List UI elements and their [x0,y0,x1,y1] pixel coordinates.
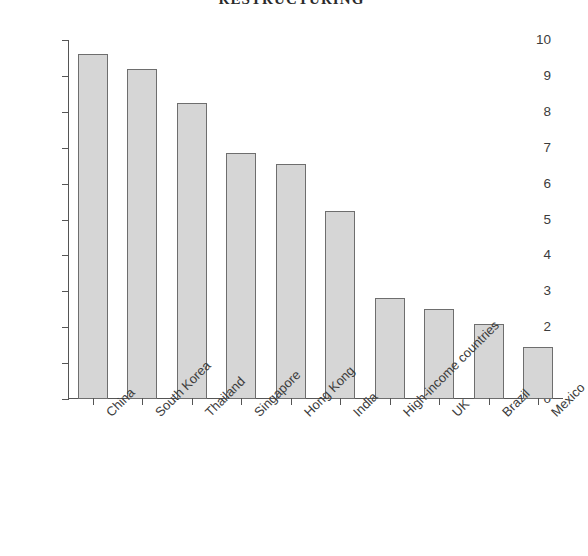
y-axis-tick-label: 9 [511,69,551,83]
x-axis-tick-label: UK [449,396,472,419]
y-axis-tick [62,255,69,256]
x-axis-tick [142,398,143,405]
chart-title: RESTRUCTURING [0,0,583,8]
x-axis-tick [93,398,94,405]
x-axis-tick [192,398,193,405]
x-axis-tick [340,398,341,405]
x-axis-tick [241,398,242,405]
y-axis-tick [62,291,69,292]
y-axis-tick [62,399,69,400]
y-axis-tick-label: 7 [511,141,551,155]
bar [226,153,256,399]
y-axis-tick [62,220,69,221]
plot-area: 012345678910 [68,40,563,399]
bar [276,164,306,399]
x-axis-tick [489,398,490,405]
x-axis-tick [538,398,539,405]
x-axis-tick [439,398,440,405]
y-axis-tick-label: 10 [511,33,551,47]
x-axis-tick [291,398,292,405]
bar [127,69,157,399]
bar [78,54,108,399]
y-axis-tick [62,363,69,364]
y-axis-tick [62,40,69,41]
y-axis-tick-label: 5 [511,213,551,227]
y-axis-tick [62,184,69,185]
y-axis-tick [62,76,69,77]
bar [177,103,207,399]
y-axis-tick [62,112,69,113]
y-axis-tick [62,327,69,328]
y-axis-tick-label: 4 [511,249,551,263]
bar [375,298,405,399]
x-axis-tick [390,398,391,405]
y-axis-tick-label: 2 [511,320,551,334]
y-axis-tick-label: 6 [511,177,551,191]
y-axis-tick-label: 8 [511,105,551,119]
y-axis-tick-label: 3 [511,285,551,299]
y-axis-tick [62,148,69,149]
